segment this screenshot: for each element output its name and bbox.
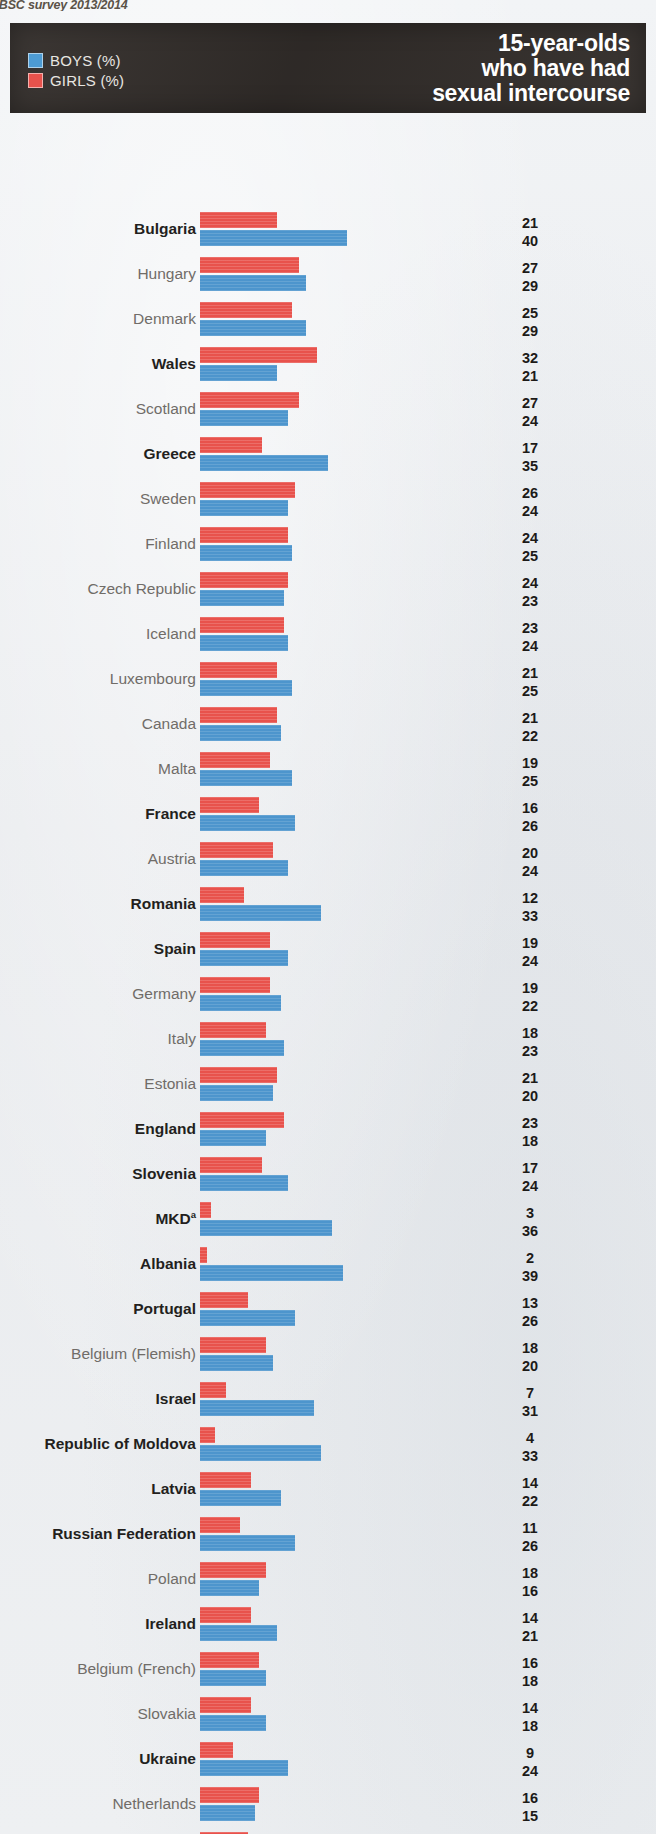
bar-group xyxy=(200,932,288,966)
boys-bar xyxy=(200,680,292,696)
source-note: HBSC survey 2013/2014 xyxy=(0,0,646,11)
table-row: Malta1925 xyxy=(0,747,656,792)
value-pair: 336 xyxy=(500,1204,560,1240)
boys-value: 24 xyxy=(500,637,560,655)
boys-bar xyxy=(200,1400,314,1416)
bar-group xyxy=(200,212,347,246)
table-row: Scotland2724 xyxy=(0,387,656,432)
bar-group xyxy=(200,302,306,336)
girls-bar xyxy=(200,932,270,948)
bar-group xyxy=(200,1022,284,1056)
boys-bar xyxy=(200,1445,321,1461)
table-row: Albania239 xyxy=(0,1242,656,1287)
country-label: Wales xyxy=(0,354,196,374)
girls-bar xyxy=(200,1742,233,1758)
bar-group xyxy=(200,1067,277,1101)
boys-value: 24 xyxy=(500,1762,560,1780)
bar-group xyxy=(200,1787,259,1821)
girls-value: 18 xyxy=(500,1339,560,1357)
table-row: Iceland2324 xyxy=(0,612,656,657)
girls-value: 23 xyxy=(500,619,560,637)
table-row: Romania1233 xyxy=(0,882,656,927)
value-pair: 924 xyxy=(500,1744,560,1780)
boys-value: 22 xyxy=(500,1492,560,1510)
boys-value: 26 xyxy=(500,1537,560,1555)
boys-value: 20 xyxy=(500,1357,560,1375)
table-row: Latvia1422 xyxy=(0,1467,656,1512)
boys-value: 24 xyxy=(500,412,560,430)
boys-value: 16 xyxy=(500,1582,560,1600)
bar-group xyxy=(200,1382,314,1416)
country-label: Poland xyxy=(0,1569,196,1589)
girls-value: 21 xyxy=(500,214,560,232)
girls-bar xyxy=(200,212,277,228)
country-label: Italy xyxy=(0,1029,196,1049)
bar-group xyxy=(200,977,281,1011)
girls-value: 12 xyxy=(500,889,560,907)
girls-value: 19 xyxy=(500,979,560,997)
value-pair: 2729 xyxy=(500,259,560,295)
bar-group xyxy=(200,887,321,921)
table-row: Portugal1326 xyxy=(0,1287,656,1332)
legend-item-girls: GIRLS (%) xyxy=(28,70,124,90)
boys-bar xyxy=(200,365,277,381)
table-row: Luxembourg2125 xyxy=(0,657,656,702)
table-row: Wales3221 xyxy=(0,342,656,387)
boys-bar xyxy=(200,905,321,921)
bar-group xyxy=(200,1427,321,1461)
boys-value: 36 xyxy=(500,1222,560,1240)
country-label: France xyxy=(0,804,196,824)
boys-value: 29 xyxy=(500,277,560,295)
table-row: Spain1924 xyxy=(0,927,656,972)
country-label: Czech Republic xyxy=(0,579,196,599)
boys-bar xyxy=(200,500,288,516)
boys-value: 18 xyxy=(500,1132,560,1150)
value-pair: 1326 xyxy=(500,1294,560,1330)
value-pair: 2624 xyxy=(500,484,560,520)
girls-bar xyxy=(200,302,292,318)
legend-item-boys: BOYS (%) xyxy=(28,50,124,70)
boys-bar xyxy=(200,410,288,426)
table-row: Belgium (French)1618 xyxy=(0,1647,656,1692)
boys-bar xyxy=(200,1355,273,1371)
value-pair: 1922 xyxy=(500,979,560,1015)
bar-group xyxy=(200,797,295,831)
girls-bar xyxy=(200,1157,262,1173)
bar-group xyxy=(200,1202,332,1236)
girls-bar xyxy=(200,662,277,678)
title-line-3: sexual intercourse xyxy=(432,81,630,106)
boys-value: 25 xyxy=(500,682,560,700)
boys-value: 21 xyxy=(500,1627,560,1645)
boys-bar xyxy=(200,455,328,471)
bar-group xyxy=(200,1742,288,1776)
girls-value: 2 xyxy=(500,1249,560,1267)
country-label: Finland xyxy=(0,534,196,554)
boys-value: 25 xyxy=(500,547,560,565)
legend-label-boys: BOYS (%) xyxy=(50,52,121,69)
boys-bar xyxy=(200,1715,266,1731)
country-bar-list: Bulgaria2140Hungary2729Denmark2529Wales3… xyxy=(0,207,656,1834)
country-label: Romania xyxy=(0,894,196,914)
value-pair: 2318 xyxy=(500,1114,560,1150)
legend-label-girls: GIRLS (%) xyxy=(50,72,124,89)
boys-value: 18 xyxy=(500,1717,560,1735)
boys-value: 40 xyxy=(500,232,560,250)
boys-value: 31 xyxy=(500,1402,560,1420)
legend-swatch-girls-icon xyxy=(28,73,43,88)
table-row: Poland1816 xyxy=(0,1557,656,1602)
girls-bar xyxy=(200,1067,277,1083)
boys-value: 15 xyxy=(500,1807,560,1825)
table-row: Slovenia1724 xyxy=(0,1152,656,1197)
table-row: Belgium (Flemish)1820 xyxy=(0,1332,656,1377)
value-pair: 1820 xyxy=(500,1339,560,1375)
value-pair: 2122 xyxy=(500,709,560,745)
boys-bar xyxy=(200,1040,284,1056)
girls-bar xyxy=(200,437,262,453)
value-pair: 433 xyxy=(500,1429,560,1465)
country-label: Netherlands xyxy=(0,1794,196,1814)
value-pair: 2024 xyxy=(500,844,560,880)
boys-bar xyxy=(200,1310,295,1326)
value-pair: 2324 xyxy=(500,619,560,655)
girls-value: 26 xyxy=(500,484,560,502)
boys-bar xyxy=(200,1625,277,1641)
